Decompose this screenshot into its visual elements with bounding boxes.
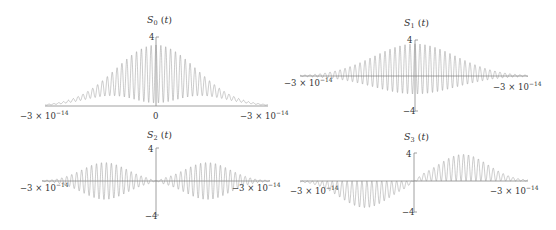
s1-y-top-label: 4: [407, 35, 412, 45]
s2-y-top-label: 4: [148, 144, 153, 154]
panel-s1: S1 (t) 4 −4 −3 × 10−14 −3 × 10−14: [284, 17, 542, 116]
s1-title: S1 (t): [404, 17, 429, 30]
s0-x-center-label: 0: [153, 111, 158, 121]
s0-title: S0 (t): [147, 14, 172, 27]
s3-y-top-label: 4: [406, 149, 411, 159]
stokes-parameters-figure: S0 (t) 4 −3 × 10−14 0 −3 × 10−14 S1 (t) …: [0, 0, 556, 230]
panel-s2: S2 (t) 4 −4 −3 × 10−14 −3 × 10−14: [20, 129, 281, 221]
s3-x-left-label: −3 × 10−14: [290, 184, 339, 196]
panel-s3: S3 (t) 4 −4 −3 × 10−14 −3 × 10−14: [290, 131, 539, 217]
s3-title: S3 (t): [404, 131, 429, 144]
s1-y-bottom-label: −4: [403, 106, 416, 116]
s2-x-right-label: −3 × 10−14: [232, 181, 281, 193]
panel-s0: S0 (t) 4 −3 × 10−14 0 −3 × 10−14: [20, 14, 289, 121]
s3-x-right-label: −3 × 10−14: [490, 184, 539, 196]
s2-title: S2 (t): [147, 129, 172, 142]
s0-x-left-label: −3 × 10−14: [20, 109, 69, 121]
s1-x-right-label: −3 × 10−14: [493, 80, 542, 92]
s3-y-bottom-label: −4: [402, 207, 415, 217]
s2-x-left-label: −3 × 10−14: [20, 181, 69, 193]
s2-y-bottom-label: −4: [145, 211, 158, 221]
s0-waveform: [45, 45, 268, 105]
s1-x-left-label: −3 × 10−14: [284, 76, 333, 88]
s0-x-right-label: −3 × 10−14: [240, 109, 289, 121]
s0-y-top-label: 4: [149, 32, 154, 42]
